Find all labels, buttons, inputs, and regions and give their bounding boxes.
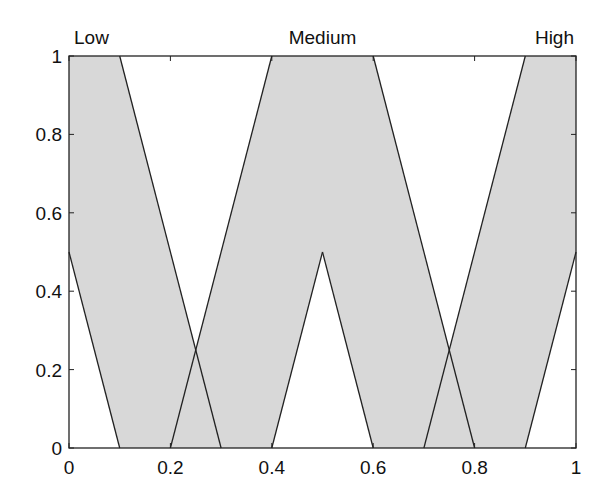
x-axis-tick-labels: 00.20.40.60.81 — [64, 457, 582, 478]
y-axis-tick-labels: 00.20.40.60.81 — [36, 46, 63, 459]
x-tick-label: 0 — [64, 457, 75, 478]
x-tick-label: 0.8 — [461, 457, 487, 478]
y-tick-label: 0.6 — [36, 203, 62, 224]
band-label-low: Low — [74, 27, 109, 48]
band-high — [424, 56, 576, 448]
y-tick-label: 0.4 — [36, 281, 63, 302]
y-tick-label: 1 — [51, 46, 62, 67]
fuzzy-membership-chart: 00.20.40.60.81 00.20.40.60.81 LowMediumH… — [0, 0, 608, 494]
x-tick-label: 0.2 — [157, 457, 183, 478]
x-tick-label: 1 — [571, 457, 582, 478]
x-tick-label: 0.4 — [259, 457, 286, 478]
y-tick-label: 0.2 — [36, 360, 62, 381]
y-tick-label: 0 — [51, 438, 62, 459]
y-tick-label: 0.8 — [36, 124, 62, 145]
band-labels: LowMediumHigh — [74, 27, 574, 48]
x-tick-label: 0.6 — [360, 457, 386, 478]
band-label-medium: Medium — [289, 27, 357, 48]
band-label-high: High — [535, 27, 574, 48]
